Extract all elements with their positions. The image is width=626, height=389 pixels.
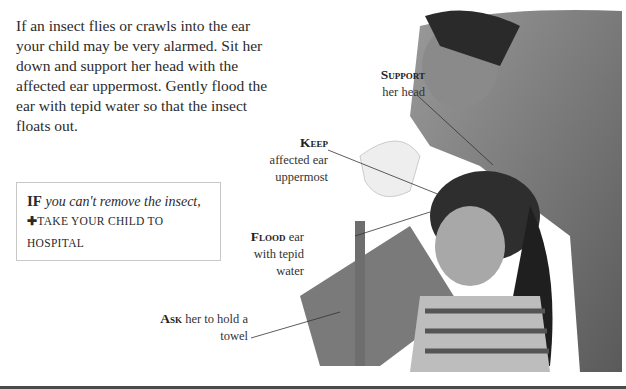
- callout-ask: Ask her to hold a towel: [160, 310, 248, 345]
- callout-keep: Keepaffected ear uppermost: [240, 134, 328, 186]
- callout-support: Supporther head: [340, 66, 425, 101]
- callout-lines: [0, 0, 626, 389]
- callout-flood: Flood ear with tepid water: [236, 228, 304, 280]
